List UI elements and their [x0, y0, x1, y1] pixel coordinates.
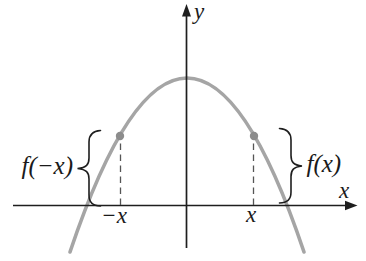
right-x-tick-label: x: [245, 202, 257, 227]
point-marker-left: [116, 132, 124, 140]
left-brace-label: f(−x): [21, 152, 73, 180]
even-function-diagram: y x f(−x) f(x) −x x: [0, 0, 366, 261]
point-marker-right: [250, 132, 258, 140]
x-axis-label: x: [338, 178, 350, 203]
diagram-canvas: y x f(−x) f(x) −x x: [0, 0, 366, 261]
left-brace: [78, 131, 101, 207]
y-axis-label: y: [192, 0, 205, 24]
right-brace-label: f(x): [307, 150, 342, 178]
y-axis-arrow-icon: [182, 4, 191, 17]
left-x-tick-label: −x: [101, 203, 128, 228]
